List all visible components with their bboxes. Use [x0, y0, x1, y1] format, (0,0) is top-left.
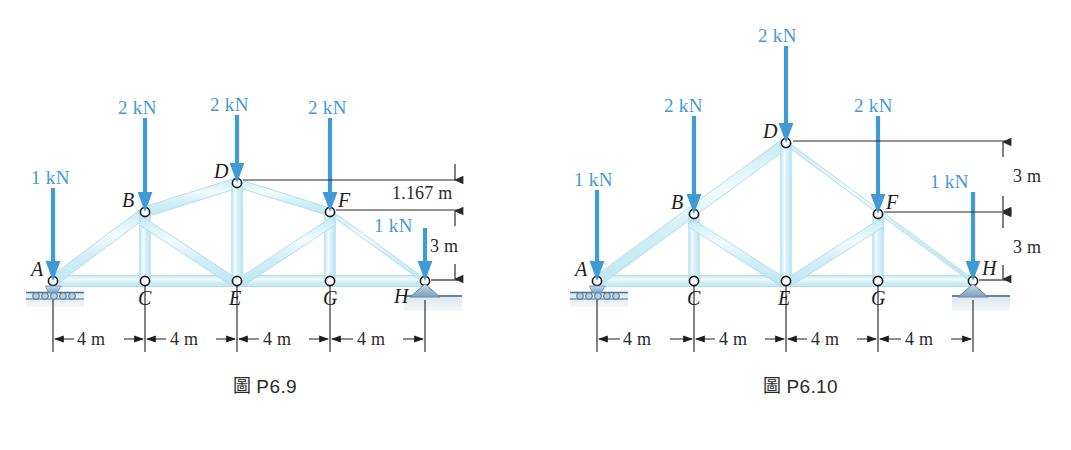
figure-caption-text: P6.9 [256, 376, 297, 397]
figure-p6-9: A B C D E F G H 1 kN 2 kN 2 kN 2 kN 1 kN… [0, 0, 530, 450]
node-label-h: H [982, 258, 996, 278]
node-label-f: F [886, 192, 898, 212]
node-label-b: B [122, 190, 134, 210]
load-label-h: 1 kN [374, 216, 413, 235]
figure-glyph-icon: 圖 [763, 375, 781, 396]
dim-label-span-2: 4 m [719, 330, 747, 348]
dim-label-span-1: 4 m [77, 330, 105, 348]
node-c [689, 276, 698, 285]
dim-label-3m-lower: 3 m [1013, 238, 1041, 256]
support-ground-left-h [404, 296, 462, 311]
dim-label-span-3: 4 m [263, 330, 291, 348]
node-label-g: G [323, 288, 337, 308]
truss-diagram-left [0, 0, 530, 420]
node-label-b: B [671, 192, 683, 212]
figure-p6-10: A B C D E F G H 1 kN 2 kN 2 kN 2 kN 1 kN… [530, 0, 1071, 450]
dim-label-3m: 3 m [430, 237, 458, 255]
node-label-h: H [394, 286, 408, 306]
node-label-c: C [687, 288, 700, 308]
load-label-h: 1 kN [930, 172, 969, 191]
figure-glyph-icon: 圖 [233, 375, 251, 396]
node-e [781, 276, 790, 285]
node-label-e: E [229, 288, 241, 308]
load-label-a: 1 kN [31, 168, 70, 187]
node-c [140, 276, 149, 285]
dim-label-span-3: 4 m [811, 330, 839, 348]
node-label-c: C [138, 288, 151, 308]
node-g [873, 276, 882, 285]
load-label-d: 2 kN [210, 95, 249, 114]
dim-label-3m-upper: 3 m [1013, 167, 1041, 185]
node-label-g: G [871, 288, 885, 308]
dim-label-1167m: 1.167 m [392, 184, 452, 202]
figure-page: A B C D E F G H 1 kN 2 kN 2 kN 2 kN 1 kN… [0, 0, 1071, 450]
truss-members-left [50, 178, 427, 286]
figure-caption-left: 圖P6.9 [0, 372, 530, 398]
load-label-f: 2 kN [308, 98, 347, 117]
load-label-f: 2 kN [854, 96, 893, 115]
node-label-d: D [763, 121, 777, 141]
dim-label-span-2: 4 m [170, 330, 198, 348]
load-label-b: 2 kN [664, 96, 703, 115]
node-label-a: A [31, 259, 43, 279]
node-g [325, 276, 334, 285]
truss-diagram-right [530, 0, 1071, 420]
load-label-b: 2 kN [118, 98, 157, 117]
figure-caption-text: P6.10 [786, 376, 838, 397]
dim-label-span-4: 4 m [905, 330, 933, 348]
node-label-a: A [575, 259, 587, 279]
node-e [232, 276, 241, 285]
load-label-d: 2 kN [758, 26, 797, 45]
node-label-e: E [778, 288, 790, 308]
support-ground-right-h [952, 296, 1010, 311]
load-label-a: 1 kN [574, 170, 613, 189]
node-label-f: F [338, 190, 350, 210]
dim-text-backings-left [74, 330, 403, 348]
figure-caption-right: 圖P6.10 [530, 372, 1071, 398]
dim-label-span-4: 4 m [357, 330, 385, 348]
dim-label-span-1: 4 m [623, 330, 651, 348]
node-label-d: D [214, 161, 228, 181]
